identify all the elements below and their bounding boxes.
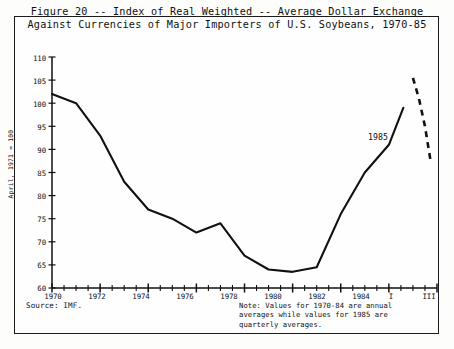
title-line-2: Against Currencies of Major Importers of… [0,19,454,32]
title-line-1: Figure 20 -- Index of Real Weighted -- A… [0,6,454,19]
source-note: Source: IMF. [26,301,82,310]
y-tick-label: 65 [24,261,46,270]
x-tick-label: 1984 [344,292,378,301]
x-tick-label: 1970 [36,292,70,301]
y-tick-label: 70 [24,238,46,247]
y-tick-label: 85 [24,169,46,178]
footnote-line-1: Note: Values for 1970-84 are annual [239,301,392,310]
y-tick-label: 110 [24,54,46,63]
x-tick-label: I [374,292,408,301]
x-tick-label: 1980 [256,292,290,301]
figure-frame [14,16,439,334]
figure-root: Figure 20 -- Index of Real Weighted -- A… [0,0,454,349]
footnote-line-3: quarterly averages. [239,320,392,329]
x-tick-label: III [412,292,446,301]
figure-title: Figure 20 -- Index of Real Weighted -- A… [0,6,454,31]
y-axis-title: April, 1971 = 100 [7,119,15,209]
x-tick-label: 1972 [80,292,114,301]
footnote-block: Note: Values for 1970-84 are annual aver… [239,301,392,329]
y-tick-label: 90 [24,146,46,155]
y-tick-label: 95 [24,123,46,132]
y-tick-label: 100 [24,100,46,109]
x-tick-label: 1976 [168,292,202,301]
series-annotation-1985: 1985 [368,132,388,142]
x-tick-label: 1978 [212,292,246,301]
x-tick-label: 1974 [124,292,158,301]
y-tick-label: 75 [24,215,46,224]
y-tick-label: 105 [24,77,46,86]
x-tick-label: 1982 [300,292,334,301]
y-tick-label: 80 [24,192,46,201]
footnote-line-2: averages while values for 1985 are [239,310,392,319]
